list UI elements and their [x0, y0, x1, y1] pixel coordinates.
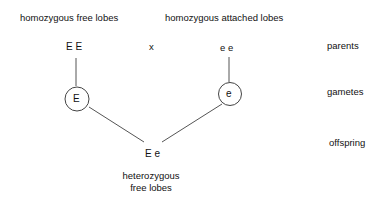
- right-parent-genotype: e e: [220, 42, 233, 53]
- right-gamete-allele: e: [226, 88, 232, 99]
- left-parent-phenotype: homozygous free lobes: [20, 12, 118, 23]
- cross-symbol: x: [149, 41, 154, 52]
- left-parent-genotype: E E: [66, 41, 82, 52]
- offspring-phenotype-line1: heterozygous: [119, 170, 183, 181]
- right-offspring-line: [162, 104, 222, 142]
- left-offspring-line: [89, 107, 144, 142]
- row-label-offspring: offspring: [329, 137, 365, 148]
- connector-lines: [0, 0, 389, 200]
- row-label-gametes: gametes: [327, 86, 363, 97]
- offspring-genotype: E e: [145, 148, 160, 159]
- right-parent-phenotype: homozygous attached lobes: [165, 12, 283, 23]
- offspring-phenotype-line2: free lobes: [119, 182, 183, 193]
- row-label-parents: parents: [327, 40, 359, 51]
- left-gamete-allele: E: [73, 93, 80, 104]
